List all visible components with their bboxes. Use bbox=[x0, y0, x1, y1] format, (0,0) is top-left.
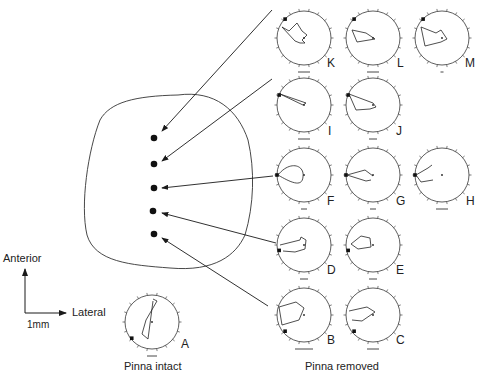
panel-label-h: H bbox=[466, 194, 475, 208]
scale-label: 1mm bbox=[27, 319, 49, 330]
polar-plot-b bbox=[275, 286, 334, 349]
panel-label-i: I bbox=[328, 124, 331, 138]
panel-label-l: L bbox=[397, 56, 404, 70]
polar-plot-i bbox=[275, 76, 334, 139]
polar-plot-c bbox=[344, 286, 403, 349]
polar-plot-g bbox=[344, 146, 403, 209]
panel-label-k: K bbox=[327, 56, 335, 70]
polar-plot-f bbox=[275, 146, 334, 209]
panel-label-f: F bbox=[327, 194, 334, 208]
panel-label-d: D bbox=[327, 263, 336, 277]
recording-sites bbox=[150, 135, 158, 238]
polar-plot-e bbox=[344, 216, 403, 279]
polar-plot-h bbox=[413, 146, 472, 209]
anterior-label: Anterior bbox=[3, 252, 42, 264]
panel-label-e: E bbox=[396, 263, 404, 277]
polar-plot-d bbox=[275, 216, 334, 279]
panel-label-b: B bbox=[327, 333, 335, 347]
pinna-removed-caption: Pinna removed bbox=[305, 360, 379, 372]
polar-plot-l bbox=[344, 9, 403, 72]
polar-plot-m bbox=[413, 9, 472, 72]
panel-label-m: M bbox=[465, 56, 475, 70]
orientation-axes bbox=[25, 269, 66, 313]
panel-label-j: J bbox=[396, 124, 402, 138]
polar-plot-j bbox=[344, 76, 403, 139]
pinna-intact-caption: Pinna intact bbox=[124, 360, 181, 372]
panel-label-c: C bbox=[396, 333, 405, 347]
polar-plots bbox=[123, 9, 472, 356]
figure-canvas bbox=[0, 0, 479, 375]
polar-plot-k bbox=[275, 9, 334, 72]
polar-plot-a bbox=[123, 293, 182, 356]
panel-label-a: A bbox=[181, 337, 189, 351]
lateral-label: Lateral bbox=[72, 306, 106, 318]
panel-label-g: G bbox=[396, 194, 405, 208]
